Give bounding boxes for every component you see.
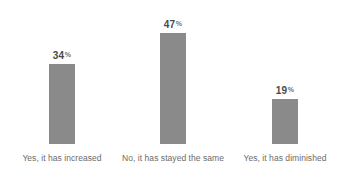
category-label-0: Yes, it has increased [4, 153, 120, 164]
bar-column[interactable]: 47% [123, 0, 223, 144]
bar-group: 47% [123, 0, 223, 144]
bar-value-number: 34 [53, 50, 65, 61]
bar-value-label: 47% [164, 18, 182, 30]
bar-value-number: 47 [164, 19, 176, 30]
bar-group: 34% [12, 0, 112, 144]
bar-group: 19% [235, 0, 335, 144]
bar-rect[interactable] [160, 33, 186, 144]
category-label-2: Yes, it has diminished [227, 153, 343, 164]
bar-chart: 34% 47% 19% Yes, it has increased No, it… [0, 0, 346, 176]
bar-value-number: 19 [276, 85, 288, 96]
percent-symbol: % [288, 86, 294, 93]
bar-rect[interactable] [49, 64, 75, 144]
bar-rect[interactable] [272, 99, 298, 144]
bar-value-label: 34% [53, 49, 71, 61]
bar-column[interactable]: 34% [12, 0, 112, 144]
percent-symbol: % [176, 20, 182, 27]
percent-symbol: % [65, 51, 71, 58]
category-label-1: No, it has stayed the same [115, 153, 231, 164]
plot-area: 34% 47% 19% Yes, it has increased No, it… [0, 0, 346, 176]
bar-value-label: 19% [276, 84, 294, 96]
bar-column[interactable]: 19% [235, 0, 335, 144]
